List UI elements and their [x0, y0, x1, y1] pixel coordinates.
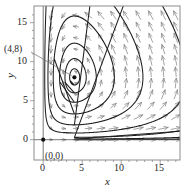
x-tick-label-5: 5 [79, 163, 84, 173]
x-tick-label-0: 0 [40, 163, 45, 173]
origin-point-label: (0,0) [45, 152, 63, 162]
y-tick-label-0: 0 [23, 134, 28, 144]
y-axis-label: y [5, 73, 16, 78]
y-tick-label-5: 5 [23, 95, 28, 105]
y-tick-label-10: 10 [17, 56, 27, 66]
x-tick-label-10: 10 [114, 163, 124, 173]
x-axis-label: x [105, 176, 110, 187]
x-tick-label-15: 15 [154, 163, 164, 173]
phase-portrait-figure: 15 10 5 0 0 5 10 15 x y (4,8) (0,0) [0, 0, 189, 190]
y-tick-label-15: 15 [17, 17, 27, 27]
center-point-label: (4,8) [4, 45, 22, 55]
